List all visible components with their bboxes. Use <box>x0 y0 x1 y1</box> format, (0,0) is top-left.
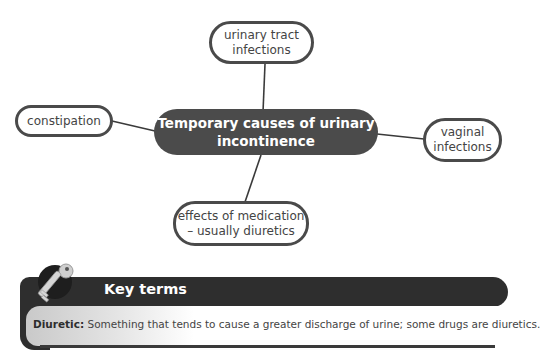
node-text: vaginal <box>441 125 485 139</box>
node-constipation: constipation <box>15 105 113 137</box>
node-text: urinary tract <box>224 28 299 42</box>
key-term: Diuretic: <box>33 318 84 330</box>
node-text: effects of medication <box>178 209 305 223</box>
center-node: Temporary causes of urinaryincontinence <box>154 109 378 155</box>
node-effects-of-medication: effects of medication– usually diuretics <box>173 201 309 246</box>
node-text: constipation <box>27 114 101 129</box>
definition-text: Something that tends to cause a greater … <box>84 318 540 330</box>
key-terms-header-bar <box>20 277 508 307</box>
key-icon <box>36 262 76 306</box>
node-text: infections <box>433 140 491 154</box>
node-text: infections <box>232 43 290 57</box>
key-terms-bottom-rule <box>40 345 495 348</box>
key-term-definition: Diuretic: Something that tends to cause … <box>33 318 540 330</box>
center-text: Temporary causes of urinary <box>157 115 374 131</box>
node-text: – usually diuretics <box>187 224 295 238</box>
node-vaginal-infections: vaginalinfections <box>423 118 502 162</box>
node-urinary-tract-infections: urinary tractinfections <box>209 21 314 64</box>
key-terms-title: Key terms <box>104 281 187 297</box>
center-text: incontinence <box>217 133 315 149</box>
